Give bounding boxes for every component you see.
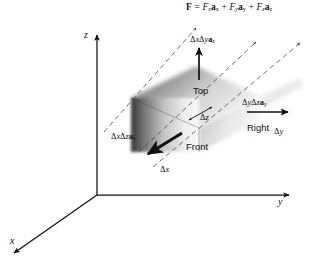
left-flux-unit-sub: x <box>133 135 136 141</box>
delta-x-axis: x <box>166 164 170 174</box>
delta-y-label: Δy <box>274 127 283 136</box>
z-axis-label: z <box>84 30 88 40</box>
right-flux-unit-sub: y <box>264 101 267 107</box>
front-face-label: Front <box>186 142 208 152</box>
figure-canvas: F=Fxax+Fyay+Fzaz z y x ΔxΔyaz ΔyΔzay ΔxΔ… <box>0 0 330 269</box>
top-flux-label: ΔxΔyaz <box>190 36 215 45</box>
box-right-smear <box>261 78 303 108</box>
x-axis-line <box>14 195 97 253</box>
formula-equals: = <box>192 2 202 12</box>
formula-plus-2: + <box>246 2 256 12</box>
delta-z-label: Δz <box>200 113 209 122</box>
delta-x-label: Δx <box>160 165 169 174</box>
formula-plus-1: + <box>219 2 229 12</box>
top-face-label: Top <box>193 86 208 96</box>
top-flux-unit-sub: z <box>212 38 214 44</box>
right-flux-label: ΔyΔzay <box>242 99 267 108</box>
formula-az-sub: z <box>270 6 273 12</box>
left-flux-label: ΔxΔzax <box>111 133 136 142</box>
x-axis-label: x <box>10 236 14 246</box>
delta-y-axis: y <box>280 126 284 136</box>
delta-z-axis: z <box>206 112 209 122</box>
y-axis-label: y <box>278 197 282 207</box>
right-face-label: Right <box>247 123 269 133</box>
vector-field-formula: F=Fxax+Fyay+Fzaz <box>186 3 272 13</box>
